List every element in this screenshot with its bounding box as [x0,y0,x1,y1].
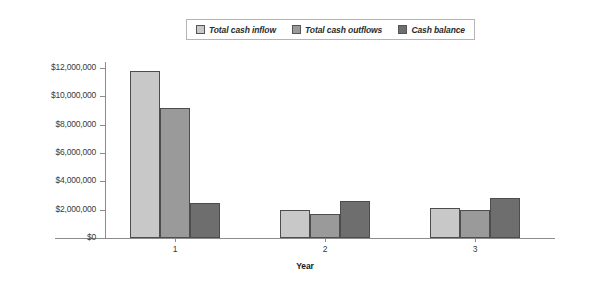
x-axis-category-label: 2 [323,244,328,254]
y-axis-tick-label: $0 [87,232,96,242]
x-axis-tick-mark [175,238,176,242]
legend-label-series-1: Total cash outflows [305,25,382,35]
legend-item-total-cash-inflow: Total cash inflow [196,25,276,35]
bar-3-series-2 [490,198,520,238]
y-axis-tick-label: $12,000,000 [51,62,96,72]
bar-2-series-1 [310,214,340,238]
bar-2-series-2 [340,201,370,238]
y-axis-tick-label: $8,000,000 [55,119,96,129]
chart-legend: Total cash inflow Total cash outflows Ca… [186,19,475,40]
bar-1-series-2 [190,203,220,238]
legend-label-series-2: Cash balance [411,25,465,35]
y-axis-tick-mark [100,238,105,239]
bar-3-series-1 [460,210,490,238]
x-axis-tick-mark [325,238,326,242]
legend-label-series-0: Total cash inflow [209,25,276,35]
bar-1-series-1 [160,108,190,238]
y-axis-tick-label: $10,000,000 [51,90,96,100]
legend-swatch-icon-series-2 [398,25,407,34]
legend-item-total-cash-outflows: Total cash outflows [292,25,382,35]
x-axis-title: Year [0,261,610,271]
x-axis-category-label: 1 [173,244,178,254]
bar-chart: Total cash inflow Total cash outflows Ca… [0,0,610,289]
legend-swatch-icon-series-1 [292,25,301,34]
y-axis-tick-label: $4,000,000 [55,175,96,185]
x-axis-category-label: 3 [473,244,478,254]
bar-1-series-0 [130,71,160,238]
plot-area [105,62,555,238]
bar-3-series-0 [430,208,460,238]
x-axis-tick-mark [475,238,476,242]
legend-item-cash-balance: Cash balance [398,25,465,35]
y-axis-tick-label: $6,000,000 [55,147,96,157]
legend-swatch-icon-series-0 [196,25,205,34]
y-axis-tick-label: $2,000,000 [55,204,96,214]
bar-2-series-0 [280,210,310,238]
x-axis-line [55,238,555,239]
